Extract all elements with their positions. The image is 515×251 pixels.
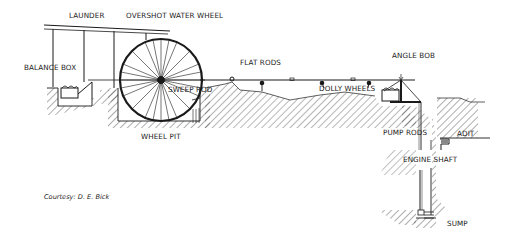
water-wheel-pumping-diagram	[0, 0, 515, 251]
label-overshot-water-wheel: OVERSHOT WATER WHEEL	[126, 11, 223, 20]
label-dolly-wheels: DOLLY WHEELS	[319, 84, 375, 93]
label-wheel-pit: WHEEL PIT	[141, 132, 181, 141]
label-balance-box: BALANCE BOX	[24, 63, 76, 72]
label-launder: LAUNDER	[69, 11, 105, 20]
label-sump: SUMP	[447, 219, 468, 228]
overshot-water-wheel	[120, 39, 202, 123]
label-sweep-rod: SWEEP ROD	[168, 85, 212, 94]
label-flat-rods: FLAT RODS	[240, 58, 281, 67]
flat-rods	[200, 77, 415, 81]
label-engine-shaft: ENGINE SHAFT	[403, 155, 457, 164]
label-pump-rods: PUMP RODS	[383, 128, 427, 137]
label-angle-bob: ANGLE BOB	[392, 51, 435, 60]
credit-text: Courtesy: D. E. Bick	[44, 193, 109, 201]
label-adit: ADIT	[457, 129, 474, 138]
adit	[440, 138, 490, 150]
